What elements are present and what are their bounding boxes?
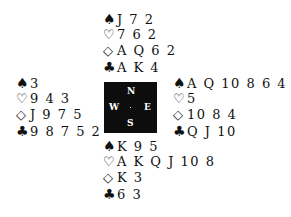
compass-north: N (127, 86, 135, 96)
west-hearts: ♡9 4 3 (16, 91, 71, 107)
north-hearts: ♡7 6 2 (103, 27, 158, 43)
west-spades: ♠3 (16, 75, 40, 91)
compass-east: E (144, 102, 151, 112)
east-hearts: ♡5 (173, 91, 197, 107)
heart-icon: ♡ (16, 91, 30, 107)
south-clubs: ♣6 3 (103, 186, 142, 202)
heart-icon: ♡ (103, 154, 117, 170)
diamond-icon: ◇ (16, 107, 30, 123)
spade-icon: ♠ (103, 11, 117, 27)
south-diamonds: ◇K 3 (103, 170, 144, 186)
spade-icon: ♠ (103, 138, 117, 154)
compass-center-dot (130, 107, 131, 108)
spade-icon: ♠ (173, 75, 187, 91)
heart-icon: ♡ (103, 27, 117, 43)
north-diamonds: ◇A Q 6 2 (103, 43, 177, 59)
west-clubs: ♣9 8 7 5 2 (16, 123, 101, 139)
diamond-icon: ◇ (103, 170, 117, 186)
club-icon: ♣ (103, 59, 117, 75)
south-spades: ♠K 9 5 (103, 138, 159, 154)
compass-west: W (109, 102, 119, 112)
diamond-icon: ◇ (173, 107, 187, 123)
diamond-icon: ◇ (103, 43, 117, 59)
club-icon: ♣ (173, 123, 187, 139)
club-icon: ♣ (103, 186, 117, 202)
north-spades: ♠J 7 2 (103, 11, 155, 27)
east-spades: ♠A Q 10 8 6 4 (173, 75, 287, 91)
compass-south: S (127, 118, 134, 128)
west-diamonds: ◇J 9 7 5 (16, 107, 83, 123)
east-clubs: ♣Q J 10 (173, 123, 237, 139)
compass-box: N W E S (104, 82, 157, 133)
spade-icon: ♠ (16, 75, 30, 91)
heart-icon: ♡ (173, 91, 187, 107)
east-diamonds: ◇10 8 4 (173, 107, 237, 123)
south-hearts: ♡A K Q J 10 8 (103, 154, 215, 170)
north-clubs: ♣A K 4 (103, 59, 160, 75)
club-icon: ♣ (16, 123, 30, 139)
